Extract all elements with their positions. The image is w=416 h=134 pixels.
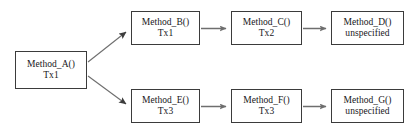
node-subtitle: Tx3 bbox=[158, 106, 173, 117]
node-subtitle: unspecified bbox=[345, 28, 389, 39]
node-title: Method_E() bbox=[142, 95, 189, 106]
node-subtitle: Tx1 bbox=[158, 28, 173, 39]
node-method-f[interactable]: Method_F() Tx3 bbox=[231, 89, 302, 123]
node-title: Method_D() bbox=[344, 17, 392, 28]
node-title: Method_G() bbox=[344, 95, 392, 106]
node-title: Method_A() bbox=[27, 59, 75, 70]
node-subtitle: Tx2 bbox=[259, 28, 274, 39]
edge-a-to-b bbox=[88, 32, 126, 62]
edge-a-to-e bbox=[88, 76, 126, 104]
node-method-c[interactable]: Method_C() Tx2 bbox=[231, 11, 302, 45]
node-method-b[interactable]: Method_B() Tx1 bbox=[131, 11, 200, 45]
node-method-d[interactable]: Method_D() unspecified bbox=[331, 11, 404, 45]
node-method-g[interactable]: Method_G() unspecified bbox=[331, 89, 404, 123]
node-title: Method_F() bbox=[243, 95, 289, 106]
node-method-e[interactable]: Method_E() Tx3 bbox=[131, 89, 200, 123]
node-subtitle: Tx1 bbox=[43, 70, 58, 81]
method-flow-diagram: Method_A() Tx1 Method_B() Tx1 Method_C()… bbox=[0, 0, 416, 134]
node-method-a[interactable]: Method_A() Tx1 bbox=[15, 51, 87, 89]
node-title: Method_B() bbox=[142, 17, 189, 28]
node-title: Method_C() bbox=[243, 17, 290, 28]
node-subtitle: unspecified bbox=[345, 106, 389, 117]
node-subtitle: Tx3 bbox=[259, 106, 274, 117]
